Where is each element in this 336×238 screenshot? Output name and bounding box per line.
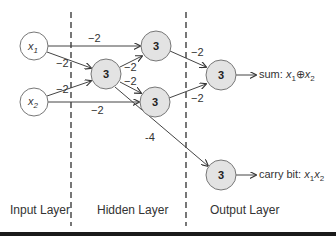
node-output-sum: 3 <box>206 60 236 90</box>
layer-label-input: Input Layer <box>10 203 70 217</box>
svg-text:3: 3 <box>152 96 158 108</box>
svg-text:3: 3 <box>218 169 224 181</box>
svg-text:3: 3 <box>153 40 159 52</box>
layer-label-output: Output Layer <box>210 203 279 217</box>
svg-text:3: 3 <box>218 69 224 81</box>
xor-symbol: ⊕ <box>296 68 305 80</box>
weight-x2-hbot: −2 <box>91 104 104 116</box>
weight-x1-hmid: −2 <box>56 57 69 69</box>
node-hidden-mid: 3 <box>91 59 121 89</box>
bottom-rule <box>0 232 336 236</box>
layer-label-hidden: Hidden Layer <box>97 203 168 217</box>
weight-x1-htop: −2 <box>88 32 101 44</box>
weight-hbot-osum: −2 <box>191 92 204 104</box>
node-hidden-top: 3 <box>141 31 171 61</box>
node-hidden-bottom: 3 <box>140 87 170 117</box>
weight-htop-osum: −2 <box>191 46 204 58</box>
edge-x1-hmid <box>47 52 91 68</box>
output-label-carry: carry bit: x1x2 <box>259 168 324 183</box>
svg-text:3: 3 <box>103 68 109 80</box>
weight-hmid-ocarry: -4 <box>145 131 155 143</box>
weight-hmid-htop: −2 <box>124 61 137 73</box>
weight-hmid-hbot: −2 <box>124 75 137 87</box>
node-output-carry: 3 <box>206 160 236 190</box>
weight-x2-hmid: −2 <box>56 83 69 95</box>
node-x1: x1 <box>20 32 48 60</box>
edge-x2-hmid <box>47 81 91 96</box>
node-x2: x2 <box>20 88 48 116</box>
output-label-sum: sum: x1⊕x2 <box>259 68 315 83</box>
